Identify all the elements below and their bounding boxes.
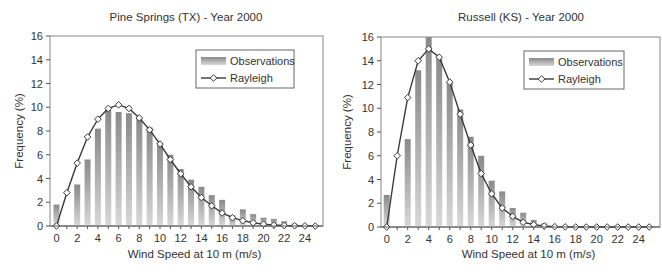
bar [74,184,80,226]
legend-observations-label: Observations [230,55,295,67]
bar [457,109,463,227]
x-axis-label: Wind Speed at 10 m (m/s) [128,248,262,260]
chart-title: Pine Springs (TX) - Year 2000 [110,11,263,23]
chart-svg: Pine Springs (TX) - Year 200002468101214… [0,0,331,276]
bar [105,110,111,226]
x-tick-label: 16 [216,232,228,244]
y-tick-label: 0 [368,221,374,233]
bar [415,70,421,227]
y-axis-label: Frequency (%) [341,94,353,170]
x-tick-label: 22 [612,233,624,245]
y-tick-label: 12 [31,78,43,90]
x-tick-label: 6 [447,233,453,245]
y-tick-label: 16 [31,30,43,42]
x-tick-label: 22 [278,232,290,244]
observations-bars [54,110,308,226]
x-tick-label: 8 [468,233,474,245]
x-tick-label: 24 [299,232,311,244]
y-tick-label: 14 [31,54,43,66]
y-tick-label: 2 [37,196,43,208]
bar [85,160,91,227]
y-tick-label: 12 [362,79,374,91]
legend-rayleigh-label: Rayleigh [230,72,273,84]
bar [126,113,132,226]
diamond-marker [74,160,81,167]
x-tick-label: 4 [95,232,101,244]
x-tick-label: 12 [175,232,187,244]
x-tick-label: 14 [528,233,540,245]
bar [95,129,101,226]
diamond-marker [115,102,122,109]
x-axis-label: Wind Speed at 10 m (m/s) [462,248,596,260]
x-tick-label: 8 [136,232,142,244]
x-tick-label: 20 [591,233,603,245]
bar [157,143,163,226]
chart-title: Russell (KS) - Year 2000 [458,11,584,23]
x-tick-label: 10 [154,232,166,244]
chart-pine-springs: Pine Springs (TX) - Year 200002468101214… [0,0,331,276]
y-axis-label: Frequency (%) [13,93,25,169]
x-tick-label: 2 [74,232,80,244]
bar [436,57,442,227]
y-tick-label: 6 [37,149,43,161]
y-tick-label: 2 [368,197,374,209]
bar [147,127,153,226]
x-tick-label: 12 [507,233,519,245]
chart-russell: Russell (KS) - Year 20000246810121416024… [331,0,662,276]
x-tick-label: 18 [570,233,582,245]
bar [489,181,495,227]
bar [426,37,432,227]
x-tick-label: 0 [384,233,390,245]
y-tick-label: 6 [368,150,374,162]
bar [167,155,173,226]
y-tick-label: 8 [368,126,374,138]
legend: ObservationsRayleigh [524,51,624,89]
diamond-marker [64,189,71,196]
rayleigh-line [53,102,318,230]
y-tick-label: 0 [37,220,43,232]
y-tick-label: 4 [37,173,43,185]
x-tick-label: 20 [257,232,269,244]
x-tick-label: 6 [116,232,122,244]
y-tick-label: 4 [368,174,374,186]
y-tick-label: 10 [362,102,374,114]
y-tick-label: 14 [362,55,374,67]
y-tick-label: 16 [362,31,374,43]
diamond-marker [84,134,91,141]
legend: ObservationsRayleigh [196,50,295,88]
y-tick-label: 10 [31,101,43,113]
x-tick-label: 24 [633,233,645,245]
diamond-marker [394,152,401,159]
legend-bar-swatch [529,58,554,66]
x-tick-label: 2 [405,233,411,245]
legend-observations-label: Observations [558,56,623,68]
x-tick-label: 4 [426,233,432,245]
bar [116,112,122,226]
x-tick-label: 14 [195,232,207,244]
x-tick-label: 18 [237,232,249,244]
bar [136,119,142,226]
legend-bar-swatch [201,57,226,65]
legend-rayleigh-label: Rayleigh [558,73,601,85]
chart-svg: Russell (KS) - Year 20000246810121416024… [331,0,662,276]
y-tick-label: 8 [37,125,43,137]
diamond-marker [404,94,411,101]
bar [405,139,411,227]
x-tick-label: 10 [486,233,498,245]
bar [209,195,215,226]
x-tick-label: 16 [549,233,561,245]
x-tick-label: 0 [53,232,59,244]
bar [198,187,204,226]
bar [447,82,453,227]
